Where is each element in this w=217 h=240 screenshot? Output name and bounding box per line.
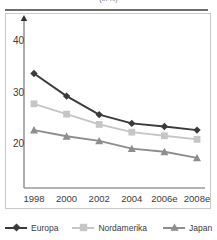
legend-label-japan: Japan	[189, 223, 212, 233]
legend-item-europa: Europa	[5, 223, 58, 233]
x-axis-tick-2008e: 2008e	[180, 193, 214, 204]
y-axis-tick-40: 40	[0, 35, 24, 46]
y-axis-tick-20: 20	[0, 138, 24, 149]
legend-item-japan: Japan	[163, 223, 212, 233]
legend-label-europa: Europa	[31, 223, 58, 233]
x-axis-tick-1998: 1998	[17, 193, 51, 204]
x-axis-tick-2006e: 2006e	[147, 193, 181, 204]
legend-swatch-europa	[5, 223, 27, 232]
legend-swatch-nordamerika	[72, 223, 94, 232]
y-axis-tick-30: 30	[0, 87, 24, 98]
x-axis-tick-2000: 2000	[50, 193, 84, 204]
x-axis-tick-2004: 2004	[115, 193, 149, 204]
legend-swatch-japan	[163, 223, 185, 232]
legend-label-nordamerika: Nordamerika	[98, 223, 147, 233]
chart-figure: (in %) 403020 19982000200220042006e2008e…	[0, 0, 217, 240]
x-axis-tick-2002: 2002	[82, 193, 116, 204]
chart-legend: Europa Nordamerika Japan	[5, 219, 212, 236]
legend-item-nordamerika: Nordamerika	[72, 223, 147, 233]
chart-plot-svg	[0, 0, 217, 240]
